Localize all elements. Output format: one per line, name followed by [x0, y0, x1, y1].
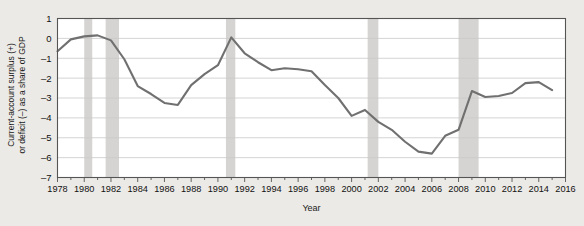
y-tick-label--4: –4 — [41, 112, 52, 123]
x-tick-label-2010: 2010 — [475, 184, 495, 194]
y-tick-label--3: –3 — [41, 92, 52, 103]
x-tick-label-1986: 1986 — [154, 184, 174, 194]
x-tick-label-1978: 1978 — [47, 184, 67, 194]
x-tick-label-1984: 1984 — [127, 184, 147, 194]
y-tick-label--7: –7 — [41, 172, 52, 183]
x-tick-label-1980: 1980 — [74, 184, 94, 194]
x-tick-label-2004: 2004 — [395, 184, 415, 194]
x-tick-label-1988: 1988 — [181, 184, 201, 194]
x-tick-label-1998: 1998 — [315, 184, 335, 194]
y-tick-label--2: –2 — [41, 73, 52, 84]
x-tick-label-1994: 1994 — [261, 184, 281, 194]
x-tick-label-2000: 2000 — [341, 184, 361, 194]
chart-plot: 10–1–2–3–4–5–6–7197819801982198419861988… — [0, 0, 584, 226]
y-tick-label--1: –1 — [41, 53, 52, 64]
y-tick-label-1: 1 — [46, 13, 51, 24]
x-tick-label-1992: 1992 — [234, 184, 254, 194]
x-tick-label-2006: 2006 — [422, 184, 442, 194]
y-tick-label--6: –6 — [41, 152, 52, 163]
x-tick-label-2014: 2014 — [529, 184, 549, 194]
y-tick-label--5: –5 — [41, 132, 52, 143]
x-axis-label: Year — [57, 203, 566, 213]
x-tick-label-2008: 2008 — [448, 184, 468, 194]
y-tick-label-0: 0 — [46, 33, 51, 44]
x-tick-label-2012: 2012 — [502, 184, 522, 194]
chart-figure: Current-account surplus (+) or deficit (… — [0, 0, 584, 226]
x-tick-label-1982: 1982 — [101, 184, 121, 194]
x-tick-label-1990: 1990 — [208, 184, 228, 194]
x-tick-label-2016: 2016 — [555, 184, 575, 194]
x-tick-label-1996: 1996 — [288, 184, 308, 194]
x-tick-label-2002: 2002 — [368, 184, 388, 194]
